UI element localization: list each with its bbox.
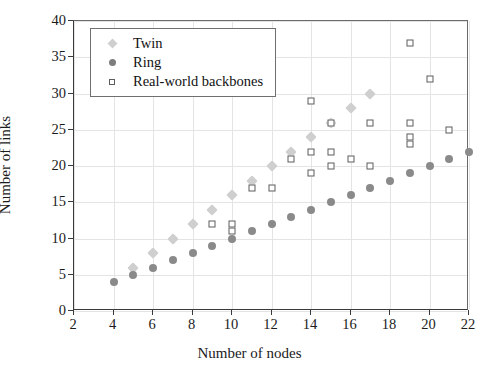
- gridline-horizontal: [74, 21, 467, 22]
- gridline-vertical: [74, 21, 75, 309]
- y-axis-tick: [68, 310, 73, 311]
- data-point: [268, 184, 275, 191]
- x-axis-tick: [310, 310, 311, 315]
- y-axis-tick-label: 25: [52, 120, 67, 137]
- x-axis-tick: [389, 310, 390, 315]
- chart-legend: Twin Ring Real-world backbones: [90, 28, 276, 97]
- y-axis-tick-label: 40: [52, 12, 67, 29]
- data-point: [327, 198, 335, 206]
- y-axis-tick: [68, 129, 73, 130]
- data-point: [327, 163, 334, 170]
- data-point: [406, 39, 413, 46]
- data-point: [207, 204, 218, 215]
- data-point: [426, 76, 433, 83]
- gridline-vertical: [390, 21, 391, 309]
- data-point: [147, 247, 158, 258]
- data-point: [229, 228, 236, 235]
- data-point: [308, 97, 315, 104]
- data-point: [345, 102, 356, 113]
- x-axis-tick-label: 20: [421, 316, 436, 333]
- data-point: [305, 131, 316, 142]
- data-point: [228, 235, 236, 243]
- y-axis-tick: [68, 93, 73, 94]
- x-axis-tick: [113, 310, 114, 315]
- x-axis-tick: [152, 310, 153, 315]
- data-point: [367, 163, 374, 170]
- data-point: [406, 169, 414, 177]
- data-point: [266, 160, 277, 171]
- data-point: [366, 184, 374, 192]
- x-axis-tick: [231, 310, 232, 315]
- circle-icon: [99, 59, 125, 66]
- gridline-vertical: [311, 21, 312, 309]
- data-point: [167, 233, 178, 244]
- legend-label: Ring: [125, 54, 161, 71]
- gridline-horizontal: [74, 130, 467, 131]
- data-point: [308, 148, 315, 155]
- data-point: [189, 249, 197, 257]
- data-point: [446, 126, 453, 133]
- data-point: [226, 189, 237, 200]
- data-point: [367, 119, 374, 126]
- gridline-horizontal: [74, 239, 467, 240]
- y-axis-tick: [68, 201, 73, 202]
- y-axis-tick-label: 10: [52, 229, 67, 246]
- legend-label: Real-world backbones: [125, 73, 263, 90]
- y-axis-tick-label: 0: [59, 302, 66, 319]
- data-point: [406, 119, 413, 126]
- legend-label: Twin: [125, 35, 163, 52]
- data-point: [406, 134, 413, 141]
- chart-figure: Number of links Number of nodes Twin Rin…: [0, 0, 499, 392]
- x-axis-tick-label: 16: [342, 316, 357, 333]
- x-axis-tick-label: 2: [69, 316, 76, 333]
- x-axis-tick-label: 18: [382, 316, 397, 333]
- gridline-vertical: [469, 21, 470, 309]
- data-point: [129, 271, 137, 279]
- legend-item-real-world-backbones: Real-world backbones: [99, 72, 263, 91]
- data-point: [327, 119, 334, 126]
- y-axis-tick-label: 15: [52, 193, 67, 210]
- y-axis-tick-label: 20: [52, 157, 67, 174]
- data-point: [307, 206, 315, 214]
- open-square-icon: [99, 79, 125, 85]
- data-point: [308, 170, 315, 177]
- data-point: [208, 242, 216, 250]
- y-axis-tick-label: 5: [59, 265, 66, 282]
- data-point: [365, 88, 376, 99]
- data-point: [347, 155, 354, 162]
- data-point: [229, 221, 236, 228]
- data-point: [445, 155, 453, 163]
- y-axis-tick: [68, 238, 73, 239]
- x-axis-tick: [192, 310, 193, 315]
- x-axis-tick: [429, 310, 430, 315]
- data-point: [169, 256, 177, 264]
- gridline-vertical: [351, 21, 352, 309]
- data-point: [248, 184, 255, 191]
- x-axis-tick-label: 10: [224, 316, 239, 333]
- x-axis-tick: [73, 310, 74, 315]
- y-axis-tick: [68, 20, 73, 21]
- legend-item-ring: Ring: [99, 53, 263, 72]
- data-point: [110, 278, 118, 286]
- data-point: [426, 162, 434, 170]
- x-axis-tick: [271, 310, 272, 315]
- y-axis-tick-label: 35: [52, 48, 67, 65]
- y-axis-tick: [68, 56, 73, 57]
- x-axis-tick-label: 14: [303, 316, 318, 333]
- data-point: [268, 220, 276, 228]
- data-point: [209, 221, 216, 228]
- data-point: [149, 264, 157, 272]
- data-point: [386, 177, 394, 185]
- x-axis-tick-label: 12: [263, 316, 278, 333]
- x-axis-tick-label: 8: [188, 316, 195, 333]
- y-axis-tick-label: 30: [52, 84, 67, 101]
- data-point: [187, 218, 198, 229]
- data-point: [406, 141, 413, 148]
- x-axis-title: Number of nodes: [0, 345, 499, 362]
- data-point: [288, 155, 295, 162]
- x-axis-tick: [468, 310, 469, 315]
- legend-item-twin: Twin: [99, 34, 263, 53]
- data-point: [465, 148, 473, 156]
- x-axis-tick-label: 6: [148, 316, 155, 333]
- y-axis-tick: [68, 165, 73, 166]
